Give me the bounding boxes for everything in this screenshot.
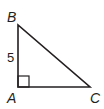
right-angle-marker [18, 76, 29, 87]
vertex-label-c: C [90, 90, 101, 106]
vertex-label-b: B [7, 9, 16, 25]
vertex-label-a: A [6, 90, 16, 106]
side-label-ab: 5 [7, 50, 14, 65]
right-triangle-diagram: B 5 A C [0, 0, 104, 109]
